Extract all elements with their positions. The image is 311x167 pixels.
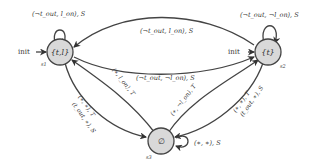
node-label-s2: {t} [261, 48, 274, 57]
state-name-s3: s3 [146, 154, 152, 160]
state-diagram: {t,l} {t} ∅ s1 s2 s3 init init (¬t_out, … [0, 0, 311, 167]
edge-label-s1-to-s2: (¬t_out, ¬l_on), S [136, 74, 195, 82]
node-label-s1: {t,l} [51, 48, 70, 57]
init-label-s2: init [228, 48, 240, 56]
state-name-s1: s1 [41, 61, 47, 67]
edge-label-s1-loop: (¬t_out, l_on), S [32, 10, 86, 18]
state-name-s2: s2 [280, 63, 286, 69]
edge-s3-loop [176, 136, 188, 147]
init-label-s1: init [18, 48, 30, 56]
edge-label-s3-to-s2: (∗, ¬l_on), T [168, 82, 198, 118]
edge-label-s3-loop: (∗, ∗), S [194, 139, 221, 147]
edge-s1-to-s2 [74, 57, 254, 74]
edge-label-s2-to-s1: (¬t_out, l_on), S [140, 27, 194, 35]
edge-label-s2-loop: (¬t_out, ¬l_on), S [240, 11, 299, 19]
node-label-s3: ∅ [158, 137, 165, 146]
edge-label-s3-to-s1: (∗, l_on), T [110, 66, 137, 98]
